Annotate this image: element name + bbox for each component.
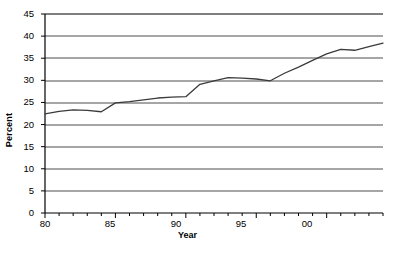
plot-area — [0, 0, 397, 256]
line-chart: Percent Year 45 40 35 30 25 20 15 10 5 0… — [0, 0, 397, 256]
gridlines — [45, 14, 383, 191]
x-axis-ticks — [45, 213, 383, 218]
